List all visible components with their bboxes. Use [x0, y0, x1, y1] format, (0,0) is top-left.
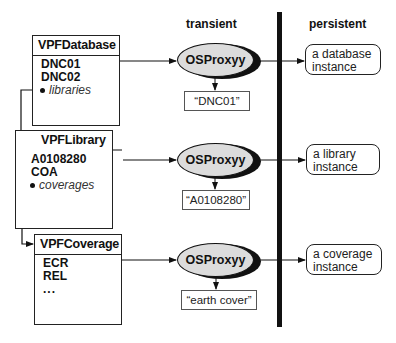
class-name: VPFDatabase: [33, 36, 119, 56]
persistent-label: persistent: [309, 17, 366, 31]
class-name: VPFLibrary: [16, 131, 112, 150]
coverage-instance-box: a coverage instance: [306, 244, 382, 275]
proxy-key-label: “A0108280”: [182, 190, 250, 210]
transient-persistent-divider: [277, 12, 282, 327]
database-instance-box: a database instance: [305, 44, 381, 75]
osproxy-database: OSProxyy: [177, 43, 261, 79]
reference-dot-icon: [30, 183, 35, 188]
proxy-ellipse: OSProxyy: [177, 43, 254, 77]
vpfcoverage-class-box: VPFCoverage ECR REL ...: [34, 234, 122, 325]
proxy-key-label: “earth cover”: [181, 290, 257, 310]
vpfdatabase-class-box: VPFDatabase DNC01 DNC02 libraries: [32, 35, 120, 126]
vpflibrary-class-box: VPFLibrary A0108280 COA coverages: [15, 130, 113, 229]
class-name: VPFCoverage: [35, 235, 121, 255]
proxy-ellipse: OSProxyy: [177, 243, 254, 277]
osproxy-coverage: OSProxyy: [177, 243, 261, 279]
proxy-key-label: “DNC01”: [184, 91, 250, 111]
transient-label: transient: [186, 17, 237, 31]
osproxy-library: OSProxyy: [177, 143, 261, 179]
proxy-ellipse: OSProxyy: [177, 143, 254, 177]
ellipsis: ...: [43, 283, 121, 296]
libraries-reference: libraries: [41, 84, 119, 97]
reference-dot-icon: [40, 88, 45, 93]
coverages-reference: coverages: [31, 179, 112, 192]
library-instance-box: a library instance: [306, 144, 380, 175]
